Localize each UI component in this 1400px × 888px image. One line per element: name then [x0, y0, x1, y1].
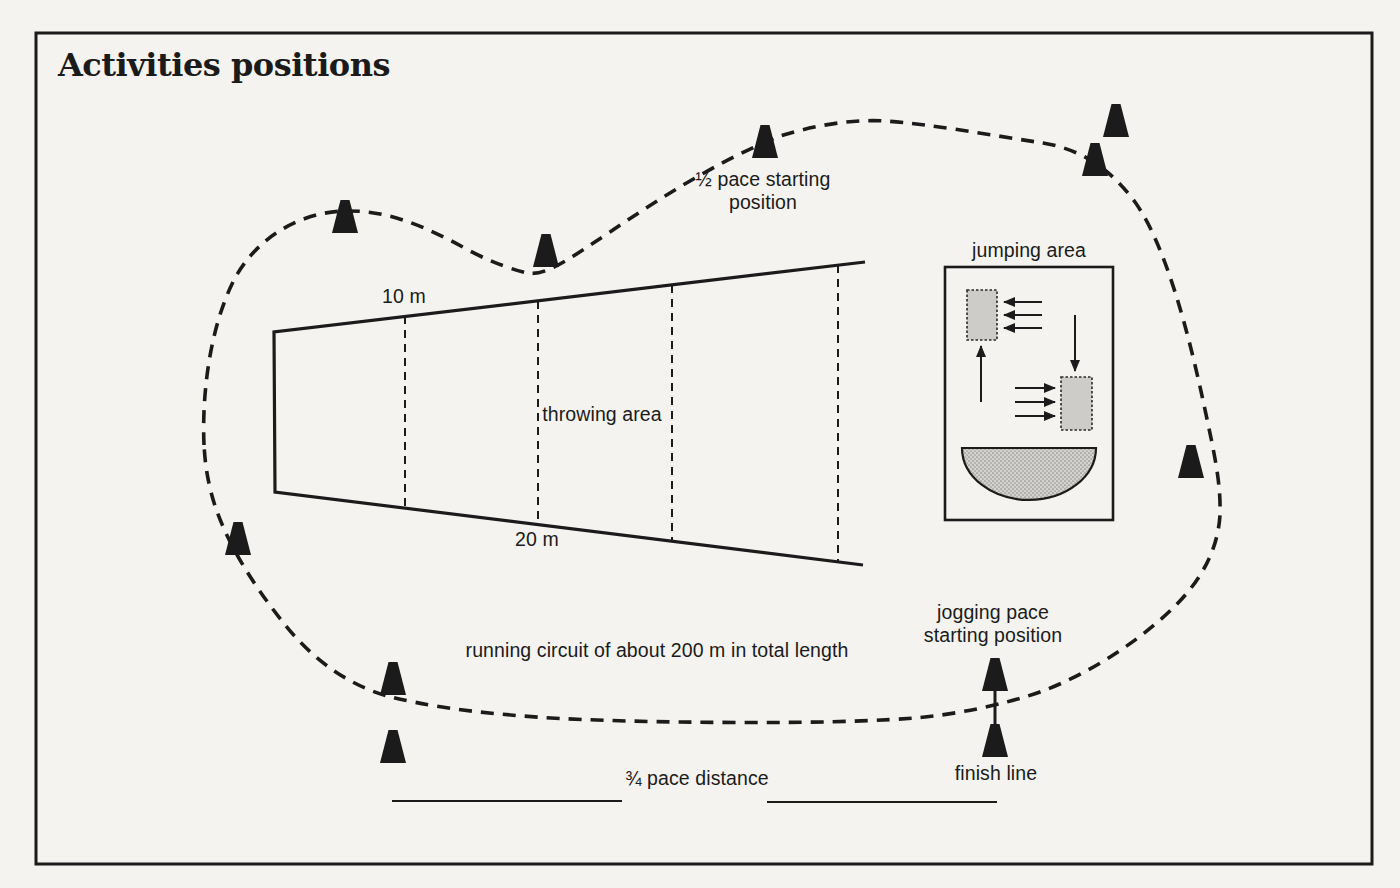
finish-line-label: finish line: [955, 762, 1037, 785]
running-circuit-label: running circuit of about 200 m in total …: [466, 639, 849, 662]
cone-marker: [332, 200, 358, 233]
throwing-top-width-label: 10 m: [382, 285, 426, 308]
cone-marker: [380, 730, 406, 763]
cone-marker: [982, 658, 1008, 691]
cone-marker: [752, 125, 778, 158]
cone-marker: [982, 724, 1008, 757]
activities-diagram: [0, 0, 1400, 888]
jumping-area-label: jumping area: [972, 239, 1086, 262]
throwing-bottom-width-label: 20 m: [515, 528, 559, 551]
cone-marker: [1178, 445, 1204, 478]
jump-mat-1: [967, 290, 997, 340]
cone-marker: [1103, 104, 1129, 137]
jump-mat-2: [1061, 377, 1092, 430]
page: Activities positions ½ pace starting pos…: [0, 0, 1400, 888]
landing-pit: [962, 448, 1096, 500]
jogging-pace-label: jogging pace starting position: [924, 601, 1062, 647]
half-pace-label: ½ pace starting position: [696, 168, 831, 214]
cone-marker: [533, 234, 559, 267]
three-quarter-pace-label: ¾ pace distance: [625, 767, 769, 790]
throwing-area-label: throwing area: [542, 403, 661, 426]
page-title: Activities positions: [58, 46, 390, 84]
diagram-border: [36, 33, 1372, 864]
cone-marker: [380, 662, 406, 695]
